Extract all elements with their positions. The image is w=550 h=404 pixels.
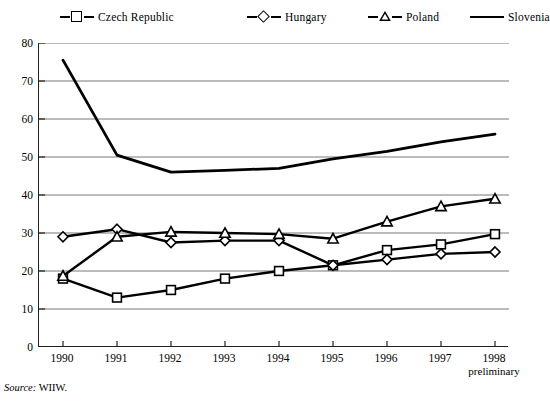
y-axis-label-30: 30: [3, 227, 33, 239]
x-axis-label-1990: 1990: [51, 352, 74, 364]
marker-czech-republic-1993: [221, 274, 230, 283]
chart-plot-svg: [39, 43, 509, 347]
marker-czech-republic-1998: [491, 230, 500, 239]
legend-line-right: [392, 16, 402, 18]
legend-triangle-icon: [379, 11, 391, 22]
series-slovenia: [63, 60, 495, 172]
legend-swatch-diamond-icon: [247, 10, 281, 24]
legend-label: Poland: [406, 11, 439, 23]
x-axis-sublabel-1998: preliminary: [468, 365, 519, 377]
legend-square-icon: [71, 11, 82, 22]
source-prefix: Source:: [4, 382, 36, 393]
source-text: WIIW.: [39, 382, 67, 393]
marker-czech-republic-1994: [275, 267, 284, 276]
legend-item-hungary[interactable]: Hungary: [247, 6, 327, 28]
x-axis-label-1996: 1996: [375, 352, 398, 364]
marker-czech-republic-1992: [167, 286, 176, 295]
triangle-shape: [380, 12, 389, 20]
chart-legend: Czech RepublicHungaryPolandSlovenia: [0, 6, 544, 32]
y-axis-label-50: 50: [3, 151, 33, 163]
series-line-slovenia: [63, 60, 495, 172]
legend-item-czech-republic[interactable]: Czech Republic: [60, 6, 174, 28]
legend-line-right: [271, 16, 281, 18]
x-axis-label-1993: 1993: [213, 352, 236, 364]
plot-area: [38, 43, 508, 347]
legend-label: Hungary: [285, 11, 327, 23]
y-axis-label-40: 40: [3, 189, 33, 201]
marker-hungary-1996: [382, 255, 392, 265]
x-axis-tick-labels: 199019911992199319941995199619971998prel…: [38, 352, 508, 392]
legend-swatch-square-icon: [60, 10, 94, 24]
legend-swatch-triangle-icon: [368, 10, 402, 24]
legend-swatch-none-icon: [470, 10, 504, 24]
y-axis-tick-labels: 01020304050607080: [0, 43, 33, 347]
marker-hungary-1992: [166, 238, 176, 248]
marker-hungary-1998: [490, 247, 500, 257]
x-axis-label-1995: 1995: [321, 352, 344, 364]
marker-czech-republic-1996: [383, 246, 392, 255]
legend-line-left: [368, 16, 378, 18]
x-axis-label-1994: 1994: [267, 352, 290, 364]
legend-diamond-icon: [257, 10, 270, 23]
x-tick-marks: [63, 341, 495, 347]
marker-czech-republic-1997: [437, 240, 446, 249]
legend-line: [470, 16, 504, 18]
y-axis-label-20: 20: [3, 265, 33, 277]
y-tick-marks: [39, 43, 45, 347]
x-axis-label-1997: 1997: [429, 352, 452, 364]
x-axis-label-1991: 1991: [105, 352, 128, 364]
legend-item-poland[interactable]: Poland: [368, 6, 439, 28]
legend-label: Czech Republic: [98, 11, 174, 23]
legend-label: Slovenia: [508, 11, 550, 23]
legend-line-left: [247, 16, 257, 18]
legend-line-left: [60, 16, 70, 18]
source-note: Source: WIIW.: [4, 382, 67, 393]
legend-item-slovenia[interactable]: Slovenia: [470, 6, 550, 28]
y-axis-label-0: 0: [3, 341, 33, 353]
marker-hungary-1997: [436, 249, 446, 259]
y-axis-label-10: 10: [3, 303, 33, 315]
x-axis-label-1998: 1998preliminary: [468, 352, 519, 377]
legend-line-right: [84, 16, 94, 18]
y-axis-label-70: 70: [3, 75, 33, 87]
y-axis-label-60: 60: [3, 113, 33, 125]
marker-czech-republic-1991: [113, 293, 122, 302]
x-axis-label-1992: 1992: [159, 352, 182, 364]
y-axis-label-80: 80: [3, 37, 33, 49]
